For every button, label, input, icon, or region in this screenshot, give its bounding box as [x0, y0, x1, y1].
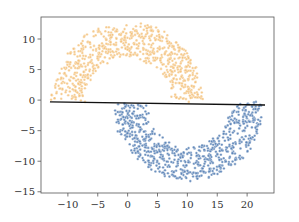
y-tick-label: −10	[14, 156, 35, 167]
series-1	[114, 101, 263, 183]
scatter-chart: −10−505101520 −15−10−50510	[0, 0, 299, 222]
x-tick-label: 5	[154, 199, 160, 210]
y-tick-label: 10	[22, 34, 35, 45]
x-tick-label: 0	[124, 199, 130, 210]
y-tick-label: 5	[29, 64, 35, 75]
y-axis-ticks: −15−10−50510	[14, 34, 41, 198]
x-tick-label: 15	[211, 199, 224, 210]
y-tick-label: −15	[14, 186, 35, 197]
x-tick-label: −10	[57, 199, 78, 210]
boundary-lines	[50, 102, 265, 105]
x-tick-label: 10	[181, 199, 194, 210]
decision-boundary-line	[50, 102, 265, 105]
x-axis-ticks: −10−505101520	[57, 193, 253, 210]
series-0	[50, 22, 204, 103]
y-tick-label: 0	[29, 95, 35, 106]
x-tick-label: −5	[90, 199, 105, 210]
y-tick-label: −5	[20, 125, 35, 136]
x-tick-label: 20	[241, 199, 254, 210]
